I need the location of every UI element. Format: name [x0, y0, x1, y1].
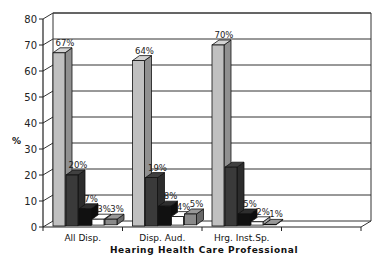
category-label: All Disp. [64, 233, 101, 243]
y-tick-label: 60 [24, 66, 37, 77]
y-tick-label: 70 [24, 40, 37, 51]
category-label: Hrg. Inst.Sp. [214, 233, 269, 243]
data-label: 67% [56, 38, 75, 48]
data-label: 5% [243, 199, 257, 209]
data-label: 3% [110, 204, 124, 214]
y-tick-label: 50 [24, 92, 37, 103]
y-axis-title: % [12, 136, 21, 146]
y-tick-label: 10 [24, 196, 37, 207]
data-label: 64% [135, 46, 154, 56]
data-label: 7% [84, 194, 98, 204]
data-label: 20% [69, 160, 88, 170]
data-label: 19% [148, 163, 167, 173]
x-axis: All Disp.Disp. Aud.Hrg. Inst.Sp. [43, 227, 361, 243]
x-axis-title: Hearing Health Care Professional [110, 245, 298, 255]
category-label: Disp. Aud. [139, 233, 185, 243]
data-label: 3% [97, 204, 111, 214]
y-tick-label: 80 [24, 14, 37, 25]
y-tick-label: 30 [24, 144, 37, 155]
data-label: 1% [269, 209, 283, 219]
y-tick-label: 40 [24, 118, 37, 129]
data-label: 4% [177, 202, 191, 212]
bar-chart: 01020304050607080 67%20%7%3%3%64%19%8%4%… [0, 0, 386, 262]
bars: 67%20%7%3%3%64%19%8%4%5%70%5%2%1% [53, 30, 283, 226]
data-label: 70% [215, 30, 234, 40]
data-label: 5% [190, 199, 204, 209]
data-label: 8% [164, 191, 178, 201]
y-tick-label: 0 [31, 222, 37, 233]
y-tick-label: 20 [24, 170, 37, 181]
data-label: 2% [256, 207, 270, 217]
y-axis: 01020304050607080 [24, 14, 43, 233]
